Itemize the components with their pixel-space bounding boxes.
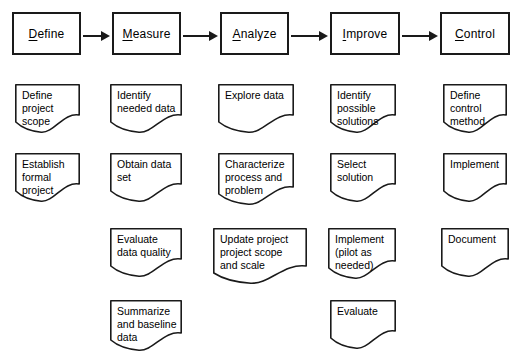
document-label-evaluate-data-quality: Evaluate data quality bbox=[117, 233, 177, 259]
phase-box-measure[interactable]: Measure bbox=[112, 12, 181, 55]
document-shape-implement-pilot[interactable]: Implement (pilot as needed) bbox=[328, 228, 396, 280]
document-shape-select-solution[interactable]: Select solution bbox=[330, 153, 396, 203]
document-shape-update-project-scope[interactable]: Update project project scope and scale bbox=[213, 228, 307, 285]
document-label-obtain-data-set: Obtain data set bbox=[117, 158, 177, 184]
phase-box-control[interactable]: Control bbox=[440, 12, 510, 55]
phase-rest-define: efine bbox=[37, 27, 64, 41]
document-shape-evaluate[interactable]: Evaluate bbox=[330, 300, 396, 350]
phase-label-improve: Improve bbox=[343, 28, 388, 40]
phase-initial-control: C bbox=[455, 27, 464, 41]
document-shape-identify-needed-data[interactable]: Identify needed data bbox=[110, 84, 182, 134]
phase-box-analyze[interactable]: Analyze bbox=[220, 12, 289, 55]
document-shape-explore-data[interactable]: Explore data bbox=[218, 84, 294, 134]
document-label-identify-needed-data: Identify needed data bbox=[117, 89, 177, 115]
document-label-implement-pilot: Implement (pilot as needed) bbox=[335, 233, 391, 272]
document-label-document: Document bbox=[448, 233, 504, 246]
phase-box-improve[interactable]: Improve bbox=[330, 12, 400, 55]
document-shape-document[interactable]: Document bbox=[441, 228, 509, 278]
arrow-improve-to-control bbox=[402, 28, 438, 40]
document-shape-implement[interactable]: Implement bbox=[443, 153, 507, 203]
document-shape-characterize-process[interactable]: Characterize process and problem bbox=[218, 153, 294, 206]
document-shape-identify-possible-solutions[interactable]: Identify possible solutions bbox=[330, 84, 396, 134]
arrow-measure-to-analyze bbox=[183, 28, 218, 40]
phase-label-define: Define bbox=[29, 28, 65, 40]
document-label-update-project-scope: Update project project scope and scale bbox=[220, 233, 302, 272]
document-label-identify-possible-solutions: Identify possible solutions bbox=[337, 89, 391, 128]
document-label-summarize-baseline-data: Summarize and baseline data bbox=[117, 305, 177, 344]
phase-label-control: Control bbox=[455, 28, 495, 40]
document-shape-define-control-method[interactable]: Define control method bbox=[443, 84, 507, 134]
document-shape-establish-formal-project[interactable]: Establish formal project bbox=[15, 153, 80, 203]
phase-initial-measure: M bbox=[122, 27, 132, 41]
phase-rest-improve: mprove bbox=[346, 27, 387, 41]
document-shape-define-project-scope[interactable]: Define project scope bbox=[15, 84, 80, 134]
phase-rest-analyze: nalyze bbox=[241, 27, 277, 41]
phase-box-define[interactable]: Define bbox=[12, 12, 81, 55]
phase-initial-analyze: A bbox=[232, 27, 240, 41]
document-label-define-project-scope: Define project scope bbox=[22, 89, 75, 128]
document-label-establish-formal-project: Establish formal project bbox=[22, 158, 75, 197]
arrow-analyze-to-improve bbox=[291, 28, 328, 40]
dmaic-diagram-canvas: DefineMeasureAnalyzeImproveControlDefine… bbox=[0, 0, 516, 361]
document-label-select-solution: Select solution bbox=[337, 158, 391, 184]
document-shape-evaluate-data-quality[interactable]: Evaluate data quality bbox=[110, 228, 182, 278]
document-label-explore-data: Explore data bbox=[225, 89, 289, 102]
phase-label-measure: Measure bbox=[122, 28, 170, 40]
phase-rest-measure: easure bbox=[133, 27, 171, 41]
document-label-define-control-method: Define control method bbox=[450, 89, 502, 128]
document-shape-summarize-baseline-data[interactable]: Summarize and baseline data bbox=[110, 300, 182, 352]
document-label-implement: Implement bbox=[450, 158, 502, 171]
arrow-define-to-measure bbox=[83, 28, 110, 40]
document-label-characterize-process: Characterize process and problem bbox=[225, 158, 289, 197]
phase-rest-control: ontrol bbox=[464, 27, 495, 41]
phase-label-analyze: Analyze bbox=[232, 28, 276, 40]
document-label-evaluate: Evaluate bbox=[337, 305, 391, 318]
document-shape-obtain-data-set[interactable]: Obtain data set bbox=[110, 153, 182, 203]
